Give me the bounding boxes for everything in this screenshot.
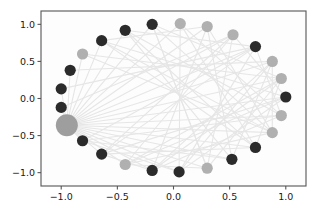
graph-node	[276, 110, 287, 121]
x-tick-label: −0.5	[106, 191, 129, 202]
x-tick-label: 1.0	[278, 191, 293, 202]
graph-node	[120, 25, 131, 36]
graph-node	[175, 18, 186, 29]
graph-node	[280, 91, 291, 102]
graph-node	[202, 163, 213, 174]
graph-node	[250, 142, 261, 153]
axes-background	[41, 11, 306, 186]
scatter-network-figure: −1.0−0.50.00.51.0 1.00.50.0−0.5−1.0	[0, 0, 323, 216]
x-tick-label: 0.0	[166, 191, 181, 202]
graph-node	[96, 35, 107, 46]
graph-node	[250, 41, 261, 52]
graph-node	[65, 65, 76, 76]
graph-node	[276, 73, 287, 84]
x-tick-label: −1.0	[50, 191, 73, 202]
graph-node-hub	[56, 114, 78, 136]
y-tick-label: 1.0	[20, 19, 35, 30]
graph-node	[77, 48, 88, 59]
graph-node	[120, 159, 131, 170]
graph-node	[267, 127, 278, 138]
graph-node	[147, 19, 158, 30]
graph-node	[227, 29, 238, 40]
graph-node	[56, 83, 67, 94]
graph-node	[77, 135, 88, 146]
y-tick-label: −1.0	[12, 167, 35, 178]
graph-node	[56, 102, 67, 113]
y-tick-label: −0.5	[12, 130, 35, 141]
y-tick-label: 0.0	[20, 93, 35, 104]
graph-node	[202, 21, 213, 32]
graph-node	[267, 56, 278, 67]
graph-node	[147, 165, 158, 176]
y-tick-label: 0.5	[20, 56, 35, 67]
plot-canvas: −1.0−0.50.00.51.0 1.00.50.0−0.5−1.0	[0, 0, 323, 216]
graph-node	[226, 154, 237, 165]
graph-node	[174, 166, 185, 177]
x-tick-label: 0.5	[222, 191, 237, 202]
graph-node	[96, 149, 107, 160]
